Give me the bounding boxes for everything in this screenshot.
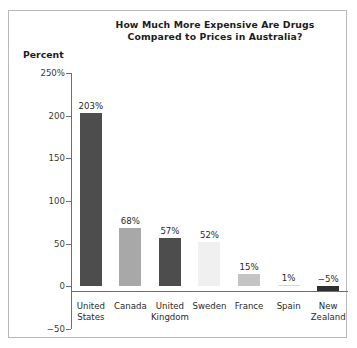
y-axis-tick-labels: 250%200150100500−50 (9, 11, 65, 339)
bar[interactable] (159, 238, 181, 287)
bar-value-label: −5% (298, 274, 357, 284)
x-axis-category-label: NewZealand (298, 301, 357, 322)
bar-group: 1%Spain (269, 11, 309, 339)
chart-frame: How Much More Expensive Are Drugs Compar… (8, 10, 347, 338)
bar-group: 203%UnitedStates (71, 11, 111, 339)
bar[interactable] (80, 113, 102, 286)
y-axis-tick-label: 0 (19, 281, 65, 291)
y-axis-tick (66, 329, 71, 330)
bar[interactable] (278, 285, 300, 287)
category-label-line: Zealand (298, 312, 357, 323)
bar-group: 52%Sweden (190, 11, 230, 339)
bar[interactable] (198, 242, 220, 286)
bar[interactable] (119, 228, 141, 286)
bar-group: 57%UnitedKingdom (150, 11, 190, 339)
bar-group: 15%France (229, 11, 269, 339)
y-axis-tick-label: −50 (19, 324, 65, 334)
bar[interactable] (238, 274, 260, 287)
category-label-line: New (298, 301, 357, 312)
bar-group: 68%Canada (111, 11, 151, 339)
y-axis-tick (66, 286, 71, 287)
y-axis-tick-label: 250% (19, 68, 65, 78)
bar-series: 203%UnitedStates68%Canada57%UnitedKingdo… (71, 11, 348, 339)
y-axis-tick (66, 201, 71, 202)
y-axis-tick-label: 200 (19, 111, 65, 121)
y-axis-tick (66, 116, 71, 117)
y-axis-tick-label: 100 (19, 196, 65, 206)
y-axis-tick-label: 150 (19, 153, 65, 163)
y-axis-tick (66, 158, 71, 159)
y-axis-tick (66, 73, 71, 74)
bar-group: −5%NewZealand (308, 11, 348, 339)
y-axis-tick-label: 50 (19, 239, 65, 249)
y-axis-tick (66, 244, 71, 245)
bar[interactable] (317, 286, 339, 290)
